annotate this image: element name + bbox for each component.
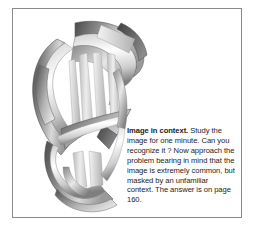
puzzle-panel-frame: Image in context. Study the image for on… — [12, 8, 242, 218]
ribbon-lower-slat-2 — [89, 151, 103, 187]
caption-block: Image in context. Study the image for on… — [127, 126, 235, 205]
caption-lead-label: Image in context. — [127, 126, 188, 135]
caption-body-text: Study the image for one minute. Can you … — [127, 126, 235, 204]
page-root: Image in context. Study the image for on… — [0, 0, 255, 235]
